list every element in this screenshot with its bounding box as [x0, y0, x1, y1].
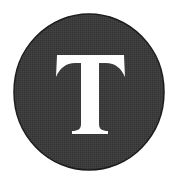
t-logo-icon — [0, 0, 174, 182]
canvas: T — [0, 0, 174, 182]
